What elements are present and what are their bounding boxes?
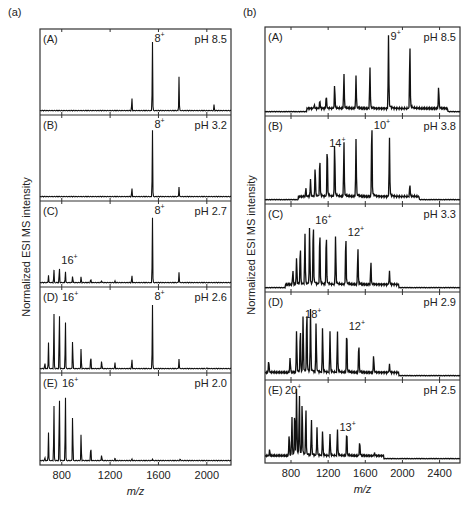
x-tick-label: 800 xyxy=(282,467,300,479)
charge-state-annotation: 16+ xyxy=(62,376,78,389)
ph-label: pH 2.9 xyxy=(424,296,456,308)
x-tick-label: 2000 xyxy=(390,467,414,479)
panel-label: (A) xyxy=(268,31,283,43)
charge-state-annotation: 16+ xyxy=(61,253,77,266)
ph-label: pH 2.6 xyxy=(195,291,227,303)
charge-state-annotation: 12+ xyxy=(348,225,364,238)
panel-label: (D) xyxy=(268,296,283,308)
y-axis-label: Normalized ESI MS intensity xyxy=(245,175,257,315)
charge-state-annotation: 10+ xyxy=(374,118,390,131)
panel-label: (A) xyxy=(43,33,58,45)
panel-label: (C) xyxy=(43,205,58,217)
charge-state-annotation: 8+ xyxy=(154,203,164,216)
x-tick-label: 2400 xyxy=(427,467,451,479)
ph-label: pH 3.8 xyxy=(424,120,456,132)
panel-label: (D) xyxy=(43,291,58,303)
y-axis-label: Normalized ESI MS intensity xyxy=(20,177,32,317)
charge-state-annotation: 20+ xyxy=(285,383,301,396)
panel-label: (C) xyxy=(268,208,283,220)
x-tick-label: 1600 xyxy=(353,467,377,479)
charge-state-annotation: 9+ xyxy=(391,29,401,42)
panel-label: (E) xyxy=(43,377,58,389)
figure-label: (b) xyxy=(243,6,256,18)
charge-state-annotation: 16+ xyxy=(62,290,78,303)
ph-label: pH 8.5 xyxy=(195,33,227,45)
figure-a xyxy=(40,29,231,465)
charge-state-annotation: 12+ xyxy=(349,319,365,332)
x-tick-label: 1600 xyxy=(146,469,170,481)
charge-state-annotation: 18+ xyxy=(305,307,321,320)
x-tick-label: 1200 xyxy=(316,467,340,479)
panel-label: (B) xyxy=(268,120,283,132)
panel-label: (B) xyxy=(43,119,58,131)
charge-state-annotation: 8+ xyxy=(154,289,164,302)
ph-label: pH 2.0 xyxy=(195,377,227,389)
charge-state-annotation: 14+ xyxy=(329,136,345,149)
x-axis-label: m/z xyxy=(127,485,145,497)
ph-label: pH 3.2 xyxy=(195,119,227,131)
charge-state-annotation: 16+ xyxy=(315,213,331,226)
x-axis-label: m/z xyxy=(354,483,372,495)
x-tick-label: 2000 xyxy=(195,469,219,481)
panel-label: (E) xyxy=(268,384,283,396)
x-tick-label: 1200 xyxy=(98,469,122,481)
figure-b xyxy=(265,27,460,463)
charge-state-annotation: 8+ xyxy=(154,31,164,44)
ph-label: pH 2.5 xyxy=(424,384,456,396)
x-tick-label: 800 xyxy=(53,469,71,481)
ph-label: pH 2.7 xyxy=(195,205,227,217)
charge-state-annotation: 8+ xyxy=(154,117,164,130)
ms-spectra-figure: (a)(A)pH 8.58+(B)pH 3.28+(C)pH 2.78+16+(… xyxy=(0,0,473,519)
figure-label: (a) xyxy=(8,6,21,18)
charge-state-annotation: 13+ xyxy=(339,420,355,433)
ph-label: pH 3.3 xyxy=(424,208,456,220)
ph-label: pH 8.5 xyxy=(424,31,456,43)
